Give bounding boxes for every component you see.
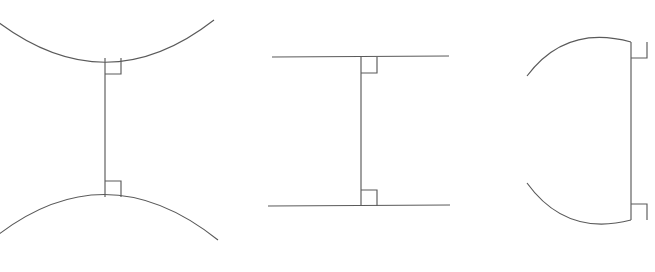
geometry-diagram xyxy=(0,0,655,272)
right-angle-marker-top xyxy=(361,57,377,73)
right-angle-marker-top xyxy=(105,58,121,74)
diagram-canvas xyxy=(0,0,655,272)
right-angle-marker-bottom xyxy=(361,190,377,206)
upper-arc xyxy=(527,37,631,76)
panel-3 xyxy=(527,37,647,224)
panel-2 xyxy=(268,56,450,206)
lower-parallel-line xyxy=(268,205,450,206)
right-angle-marker-bottom xyxy=(631,204,647,220)
upper-arc xyxy=(0,19,214,62)
lower-arc xyxy=(527,183,631,224)
lower-arc xyxy=(0,194,218,240)
panel-1 xyxy=(0,19,218,240)
right-angle-marker-top xyxy=(631,42,647,58)
upper-parallel-line xyxy=(272,56,449,57)
